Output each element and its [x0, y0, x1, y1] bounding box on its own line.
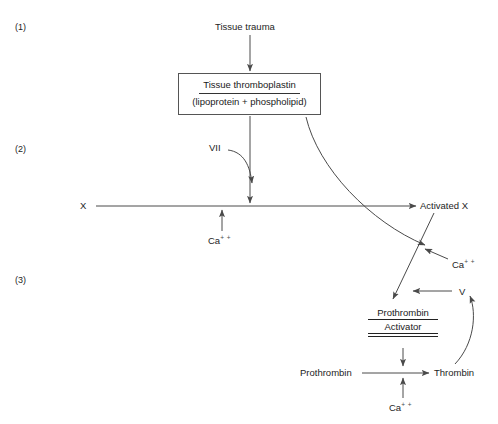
node-factor-v: V [459, 286, 465, 297]
ion-calcium-thrombin-symbol: Ca [389, 402, 401, 413]
arrow-thrombin-feedback-to-v [455, 296, 473, 364]
ion-calcium-thrombin-charge: + + [401, 401, 412, 408]
node-factor-vii: VII [209, 142, 221, 153]
node-prothrombin-activator: Prothrombin Activator [368, 307, 438, 337]
ion-calcium-activator-charge: + + [464, 258, 475, 265]
node-prothrombin: Prothrombin [300, 367, 352, 378]
step-label-2: (2) [15, 144, 26, 155]
ion-calcium-x-symbol: Ca [208, 235, 220, 246]
diagram-connectors [0, 0, 498, 424]
arrow-calcium-to-activator [425, 249, 448, 259]
step-label-3: (3) [15, 275, 26, 286]
node-thrombin: Thrombin [434, 367, 474, 378]
node-tissue-thromboplastin-box: Tissue thromboplastin (lipoprotein + pho… [178, 73, 321, 115]
ion-calcium-activator-symbol: Ca [452, 259, 464, 270]
node-activated-x: Activated X [420, 200, 468, 211]
prothrombin-activator-denominator: Activator [368, 321, 438, 332]
prothrombin-activator-bar-top [368, 319, 438, 320]
thromboplastin-fraction-bar [199, 93, 300, 94]
ion-calcium-x-charge: + + [220, 234, 231, 241]
ion-calcium-thrombin: Ca+ + [389, 399, 412, 413]
prothrombin-activator-bar-bottom [368, 336, 438, 337]
arrow-thromboplastin-to-activator [306, 117, 425, 245]
node-tissue-trauma: Tissue trauma [215, 21, 275, 32]
ion-calcium-activator: Ca+ + [452, 256, 475, 270]
prothrombin-activator-numerator: Prothrombin [368, 307, 438, 318]
thromboplastin-denominator: (lipoprotein + phospholipid) [179, 96, 320, 107]
arrow-activated-x-to-activator [393, 213, 434, 299]
node-factor-x: X [80, 200, 86, 211]
prothrombin-activator-bar-mid [368, 333, 438, 334]
step-label-1: (1) [15, 22, 26, 33]
arrow-viii-curve [228, 150, 252, 183]
diagram-canvas: (1) (2) (3) Tissue trauma Tissue thrombo… [0, 0, 498, 424]
ion-calcium-x: Ca+ + [208, 232, 231, 246]
thromboplastin-numerator: Tissue thromboplastin [179, 79, 320, 90]
